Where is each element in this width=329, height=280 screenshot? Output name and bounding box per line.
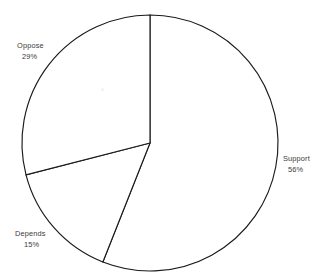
pie-label-depends-value: 15% [15, 240, 46, 251]
pie-chart-figure: Support 56% Oppose 29% Depends 15% [0, 0, 329, 280]
pie-label-oppose-value: 29% [17, 52, 44, 63]
pie-label-support: Support 56% [283, 154, 310, 175]
pie-label-support-name: Support [283, 154, 310, 165]
pie-label-oppose: Oppose 29% [17, 41, 44, 62]
scan-artifact-speck [101, 88, 104, 91]
pie-chart-canvas [0, 0, 329, 280]
pie-label-support-value: 56% [283, 165, 310, 176]
pie-label-depends-name: Depends [15, 229, 46, 240]
pie-label-oppose-name: Oppose [17, 41, 44, 52]
pie-label-depends: Depends 15% [15, 229, 46, 250]
